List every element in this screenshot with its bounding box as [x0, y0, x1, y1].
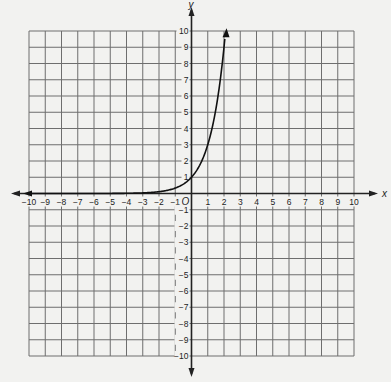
x-tick-label: −2	[154, 197, 164, 207]
x-tick-label: 6	[287, 197, 292, 207]
x-tick-label: 4	[254, 197, 259, 207]
y-tick-label: −3	[179, 237, 189, 247]
x-tick-label: 7	[303, 197, 308, 207]
x-tick-label: 3	[238, 197, 243, 207]
x-axis-right-arrow-icon	[369, 191, 378, 197]
x-tick-label: −10	[22, 197, 37, 207]
y-tick-label: 9	[184, 42, 189, 52]
y-tick-label: 6	[184, 91, 189, 101]
x-axis-label: x	[381, 188, 388, 199]
x-tick-label: −5	[105, 197, 115, 207]
y-tick-label: 4	[184, 124, 189, 134]
x-tick-label: 2	[222, 197, 227, 207]
x-axis-left-arrow-icon	[11, 191, 20, 197]
y-tick-label: −7	[179, 302, 189, 312]
y-tick-label: −5	[179, 270, 189, 280]
y-tick-label: 2	[184, 156, 189, 166]
y-tick-label: 5	[184, 107, 189, 117]
y-tick-label: 10	[179, 26, 189, 36]
x-tick-label: −9	[40, 197, 50, 207]
y-tick-label: 3	[184, 140, 189, 150]
x-tick-label: 5	[270, 197, 275, 207]
y-tick-label: 8	[184, 59, 189, 69]
x-tick-label: −7	[73, 197, 83, 207]
x-tick-label: 1	[205, 197, 210, 207]
y-tick-label: −10	[174, 351, 189, 361]
y-tick-label: −9	[179, 335, 189, 345]
y-tick-label: −2	[179, 221, 189, 231]
x-tick-label: −3	[138, 197, 148, 207]
x-tick-label: −8	[57, 197, 67, 207]
y-tick-label: 7	[184, 75, 189, 85]
coordinate-plane: xyO −10−9−8−7−6−5−4−3−2−1123456789101098…	[0, 0, 391, 382]
axes: xyO	[11, 0, 388, 377]
y-tick-label: −1	[179, 205, 189, 215]
x-tick-label: 8	[319, 197, 324, 207]
x-tick-label: 10	[349, 197, 359, 207]
x-tick-label: −4	[122, 197, 132, 207]
x-tick-label: −6	[89, 197, 99, 207]
y-tick-label: −4	[179, 254, 189, 264]
y-tick-label: −8	[179, 319, 189, 329]
y-axis-down-arrow-icon	[189, 368, 195, 377]
y-axis-label: y	[188, 0, 195, 10]
y-tick-label: −6	[179, 286, 189, 296]
x-tick-label: 9	[335, 197, 340, 207]
